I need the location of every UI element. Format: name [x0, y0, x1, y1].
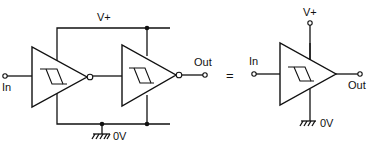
input-terminal: [3, 74, 7, 78]
input-terminal: [252, 72, 256, 76]
schmitt-inverter-1: [32, 47, 93, 107]
junction-dot: [145, 122, 150, 127]
output-label: Out: [194, 56, 212, 68]
buffer-triangle: [122, 45, 176, 106]
left-circuit: 0V V+ In Out: [2, 11, 212, 142]
ground-label: 0V: [320, 117, 334, 129]
output-label: Out: [348, 79, 366, 91]
v-plus-rail: [57, 28, 170, 48]
inverter-bubble: [87, 74, 93, 80]
schmitt-buffer: [280, 43, 336, 105]
schmitt-trigger-equivalence-diagram: 0V V+ In Out = V+: [0, 0, 369, 145]
junction-dot: [145, 26, 150, 31]
supply-terminal: [308, 21, 312, 25]
right-circuit: V+ 0V In Out: [249, 6, 366, 129]
output-terminal: [358, 72, 362, 76]
buffer-triangle: [32, 47, 87, 107]
inverter-bubble: [176, 72, 182, 78]
ground-symbol: [300, 121, 316, 126]
output-terminal: [203, 73, 207, 77]
supply-label: V+: [303, 6, 317, 18]
equals-sign: =: [226, 68, 234, 83]
schmitt-inverter-2: [122, 45, 182, 106]
supply-label: V+: [97, 11, 111, 23]
ground-rail: [57, 107, 170, 124]
input-label: In: [249, 55, 258, 67]
input-label: In: [2, 81, 11, 93]
ground-label: 0V: [113, 130, 127, 142]
